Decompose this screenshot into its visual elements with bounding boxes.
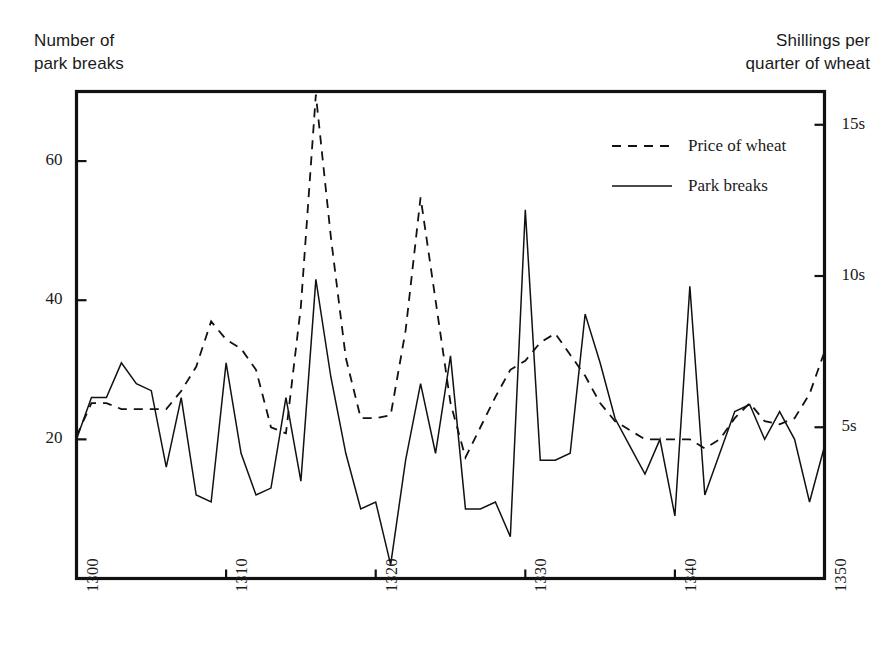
ytick-left-label-40: 40 <box>19 289 63 309</box>
legend-label-price-of-wheat: Price of wheat <box>688 136 786 156</box>
chart-figure: Number of park breaks Shillings per quar… <box>0 0 893 657</box>
xtick-label-1320: 1320 <box>383 558 401 592</box>
xtick-label-1350: 1350 <box>832 558 850 592</box>
xtick-label-1300: 1300 <box>84 558 102 592</box>
plot-frame <box>77 92 825 579</box>
ytick-left-label-60: 60 <box>19 150 63 170</box>
series-line-park-breaks <box>77 210 825 565</box>
plot-canvas <box>0 0 893 657</box>
xtick-label-1340: 1340 <box>682 558 700 592</box>
ytick-right-label-15s: 15s <box>842 114 866 134</box>
ytick-right-label-10s: 10s <box>842 265 866 285</box>
legend-label-park-breaks: Park breaks <box>688 176 768 196</box>
xtick-label-1330: 1330 <box>532 558 550 592</box>
ytick-right-label-5s: 5s <box>842 416 857 436</box>
xtick-label-1310: 1310 <box>233 558 251 592</box>
ytick-left-label-20: 20 <box>19 428 63 448</box>
